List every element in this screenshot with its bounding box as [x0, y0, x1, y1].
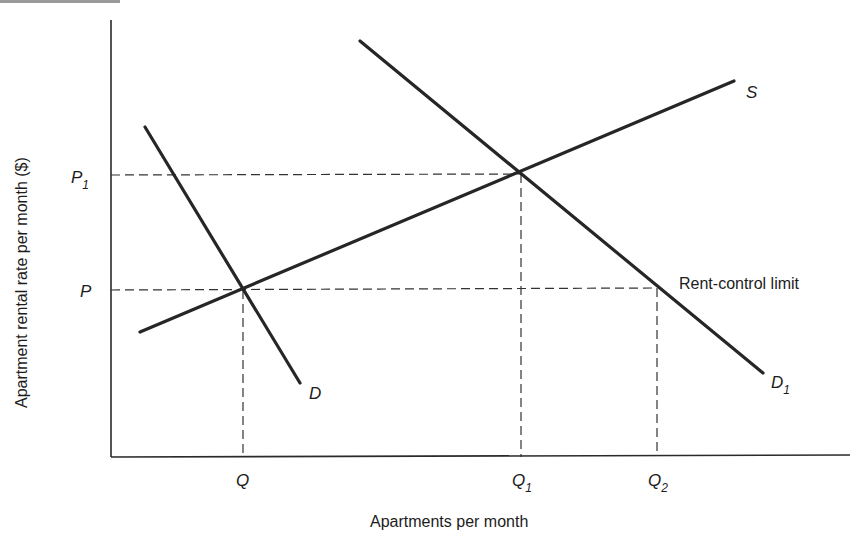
q1-label-main: Q [512, 471, 525, 490]
p1-label: P1 [71, 168, 89, 192]
x-axis-title: Apartments per month [370, 513, 528, 530]
q2-label-main: Q [648, 471, 661, 490]
q2-label: Q2 [648, 471, 668, 495]
p1-label-sub: 1 [82, 178, 89, 192]
p-reference-line [111, 288, 657, 290]
s-label: S [746, 83, 758, 102]
rent-control-label: Rent-control limit [679, 275, 800, 292]
x-axis [111, 455, 850, 457]
y-axis-title: Apartment rental rate per month ($) [13, 157, 30, 408]
demand-curve-d1 [360, 41, 763, 373]
supply-curve-s [140, 81, 734, 332]
q1-label-sub: 1 [525, 481, 532, 495]
d1-label-main: D [771, 373, 783, 392]
q1-label: Q1 [512, 471, 532, 495]
demand-curve-d [145, 127, 300, 383]
p-label: P [80, 282, 92, 301]
supply-demand-chart: S D D1 P1 P Q Q1 Q2 Rent-control limit A… [0, 0, 852, 553]
q2-label-sub: 2 [660, 481, 668, 495]
q-label: Q [236, 471, 249, 490]
d-label: D [309, 384, 321, 403]
p1-label-main: P [71, 168, 83, 187]
d1-label: D1 [771, 373, 790, 397]
d1-label-sub: 1 [783, 383, 790, 397]
